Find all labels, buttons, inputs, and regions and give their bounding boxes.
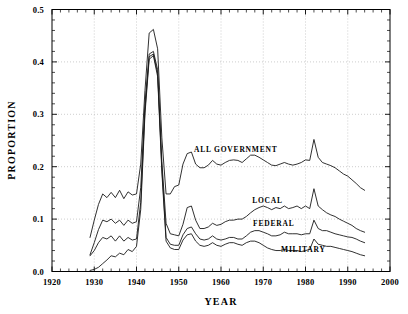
x-tick-label: 1990 (339, 277, 357, 287)
series-annotation-military: MILITARY (281, 245, 326, 254)
x-axis-title: YEAR (204, 296, 237, 307)
series-line-federal (90, 54, 365, 256)
y-tick-label: 0.5 (33, 5, 44, 15)
x-tick-label: 1970 (254, 277, 272, 287)
x-tick-label: 1960 (212, 277, 230, 287)
y-axis-tick-labels: 0.00.10.20.30.40.5 (33, 5, 45, 277)
series-line-all-government (90, 29, 365, 237)
series-annotation-local: LOCAL (252, 196, 283, 205)
x-tick-label: 1920 (43, 277, 61, 287)
x-tick-label: 1940 (128, 277, 146, 287)
x-tick-label: 1950 (170, 277, 188, 287)
x-tick-label: 1930 (85, 277, 103, 287)
y-tick-label: 0.2 (33, 162, 44, 172)
gridlines (52, 10, 390, 272)
y-axis-title: PROPORTION (6, 100, 17, 179)
y-tick-label: 0.3 (33, 109, 44, 119)
x-tick-label: 1980 (297, 277, 315, 287)
y-tick-label: 0.1 (33, 214, 44, 224)
y-tick-label: 0.0 (33, 267, 44, 277)
chart-page: 192019301940195019601970198019902000 0.0… (0, 0, 408, 314)
x-tick-label: 2000 (381, 277, 399, 287)
y-tick-label: 0.4 (33, 57, 45, 67)
x-axis-tick-labels: 192019301940195019601970198019902000 (43, 277, 399, 287)
proportion-vs-year-line-chart: 192019301940195019601970198019902000 0.0… (0, 0, 408, 314)
series-annotation-federal: FEDERAL (253, 219, 294, 228)
series-annotation-all-government: ALL GOVERNMENT (194, 145, 278, 154)
